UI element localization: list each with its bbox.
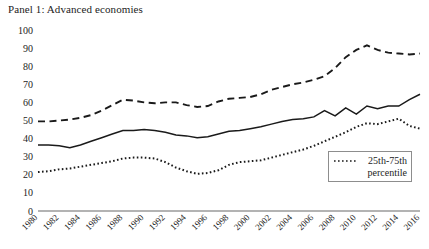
x-axis-tick-1994: 1994 [168,212,188,232]
x-axis-tick-1984: 1984 [62,212,82,232]
x-axis-tick-1982: 1982 [41,212,61,232]
chart-plot-area: 0102030405060708090100 19801982198419861… [0,0,429,249]
x-axis-tick-1980: 1980 [20,212,40,232]
x-axis-tick-1996: 1996 [189,212,209,232]
series-line-solid [38,94,420,147]
y-axis-tick-70: 70 [23,79,33,90]
y-axis-tick-10: 10 [23,187,33,198]
legend-label-line-1: 25th-75th [368,155,407,166]
x-axis-tick-1992: 1992 [147,212,167,232]
legend-dotted-line-icon [333,158,357,170]
y-axis-tick-60: 60 [23,97,33,108]
legend-label: 25th-75th percentile [357,155,407,179]
y-axis-tick-20: 20 [23,169,33,180]
x-axis-tick-2014: 2014 [380,212,400,232]
x-axis-tick-1998: 1998 [211,212,231,232]
x-axis-tick-1986: 1986 [83,212,103,232]
x-axis-tick-1988: 1988 [105,212,125,232]
x-axis-tick-2010: 2010 [338,212,358,232]
x-axis-tick-2016: 2016 [402,212,422,232]
x-axis-tick-2006: 2006 [296,212,316,232]
legend-label-line-2: percentile [368,167,407,178]
chart-container: Panel 1: Advanced economies 010203040506… [0,0,429,249]
chart-legend: 25th-75th percentile [328,151,412,182]
x-axis-tick-2000: 2000 [232,212,252,232]
x-axis-tick-2008: 2008 [317,212,337,232]
x-axis-tick-labels: 1980198219841986198819901992199419961998… [20,212,422,232]
y-axis-tick-90: 90 [23,43,33,54]
x-axis-tick-2012: 2012 [359,212,379,232]
y-axis-tick-40: 40 [23,133,33,144]
y-axis-tick-30: 30 [23,151,33,162]
y-axis-tick-labels: 0102030405060708090100 [18,25,33,217]
x-axis-tick-2002: 2002 [253,212,273,232]
y-axis-tick-50: 50 [23,115,33,126]
x-axis-tick-1990: 1990 [126,212,146,232]
x-axis-tick-2004: 2004 [274,212,294,232]
y-axis-tick-80: 80 [23,61,33,72]
y-axis-tick-100: 100 [18,25,33,36]
